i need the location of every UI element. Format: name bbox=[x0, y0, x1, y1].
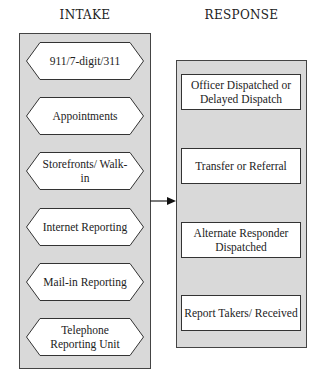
intake-item-label: Telephone Reporting Unit bbox=[40, 318, 130, 356]
intake-item-label: Storefronts/ Walk-in bbox=[40, 152, 130, 190]
response-item-report-takers: Report Takers/ Received bbox=[181, 295, 301, 331]
intake-item-storefronts: Storefronts/ Walk-in bbox=[26, 152, 144, 190]
intake-item-label: 911/7-digit/311 bbox=[40, 42, 130, 80]
intake-item-911: 911/7-digit/311 bbox=[26, 42, 144, 80]
response-item-transfer-referral: Transfer or Referral bbox=[181, 148, 301, 184]
intake-item-label: Appointments bbox=[40, 97, 130, 135]
intake-item-label: Internet Reporting bbox=[40, 208, 130, 246]
response-item-officer-dispatched: Officer Dispatched or Delayed Dispatch bbox=[181, 74, 301, 110]
intake-item-label: Mail-in Reporting bbox=[40, 263, 130, 301]
response-item-alternate-responder: Alternate Responder Dispatched bbox=[181, 222, 301, 258]
intake-item-appointments: Appointments bbox=[26, 97, 144, 135]
intake-item-telephone: Telephone Reporting Unit bbox=[26, 318, 144, 356]
response-heading: RESPONSE bbox=[176, 8, 307, 22]
arrow-right-icon bbox=[150, 196, 177, 206]
intake-item-mail-in: Mail-in Reporting bbox=[26, 263, 144, 301]
intake-item-internet: Internet Reporting bbox=[26, 208, 144, 246]
intake-heading: INTAKE bbox=[19, 8, 151, 22]
